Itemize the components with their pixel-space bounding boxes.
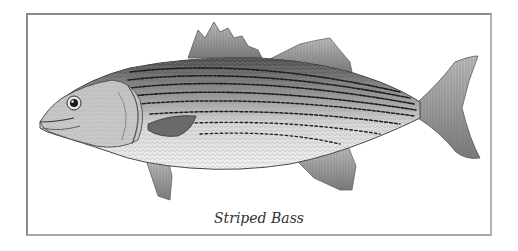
caudal-fin [418, 56, 480, 158]
figure-caption: Striped Bass [0, 210, 518, 226]
fish-head [40, 80, 143, 147]
spiny-dorsal-fin [188, 22, 262, 58]
fish-eye [67, 96, 81, 110]
